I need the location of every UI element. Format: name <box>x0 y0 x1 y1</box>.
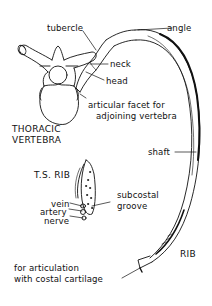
label-shaft: shaft <box>148 147 170 157</box>
label-facet-line1: articular facet for <box>88 100 165 110</box>
label-articulation-line1: for articulation <box>14 263 79 273</box>
label-rib: RIB <box>180 249 196 259</box>
label-angle: angle <box>167 23 191 33</box>
label-vertebra-line1: THORACIC <box>12 124 61 134</box>
label-vertebra-line2: VERTEBRA <box>12 135 61 145</box>
label-tubercle: tubercle <box>47 23 83 33</box>
rib-drawing <box>76 30 200 272</box>
label-neck: neck <box>110 59 131 69</box>
label-ts-rib: T.S. RIB <box>34 170 70 180</box>
ts-rib-drawing <box>75 160 95 220</box>
leader-lines <box>69 28 196 278</box>
anatomy-diagram <box>0 0 212 306</box>
label-subcostal-line2: groove <box>117 201 147 211</box>
label-facet-line2: adjoining vertebra <box>96 111 177 121</box>
label-head: head <box>106 76 128 86</box>
label-nerve: nerve <box>44 216 69 226</box>
label-articulation-line2: with costal cartilage <box>14 274 103 284</box>
label-subcostal-line1: subcostal <box>117 190 159 200</box>
